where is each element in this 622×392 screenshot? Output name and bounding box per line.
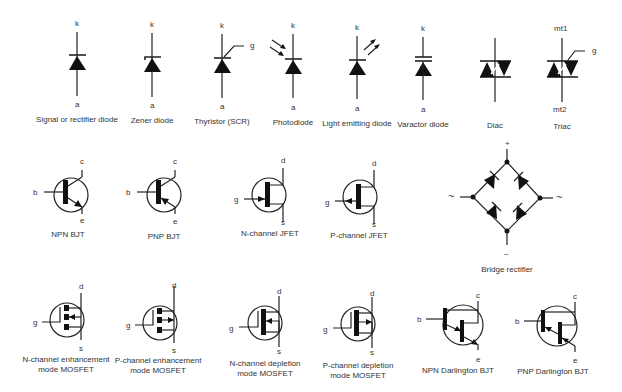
svg-text:e: e xyxy=(573,356,578,365)
photodiode-symbol: k a Photodiode xyxy=(270,21,314,127)
svg-text:c: c xyxy=(173,157,177,166)
svg-text:a: a xyxy=(75,100,80,109)
svg-text:d: d xyxy=(277,287,281,296)
svg-text:g: g xyxy=(234,195,238,204)
svg-text:s: s xyxy=(79,344,83,353)
svg-text:mode MOSFET: mode MOSFET xyxy=(237,369,293,378)
component-symbols-diagram: k a Signal or rectifier diode k a Zener … xyxy=(0,0,622,392)
svg-text:k: k xyxy=(355,23,360,32)
svg-text:a: a xyxy=(220,102,225,111)
svg-text:Photodiode: Photodiode xyxy=(273,118,314,127)
svg-text:e: e xyxy=(476,355,481,364)
svg-text:g: g xyxy=(323,325,327,334)
svg-text:s: s xyxy=(172,346,176,355)
svg-text:b: b xyxy=(126,188,131,197)
svg-text:Zener diode: Zener diode xyxy=(131,116,174,125)
svg-text:P-channel enhancement: P-channel enhancement xyxy=(115,356,203,365)
svg-text:Triac: Triac xyxy=(553,122,570,131)
svg-text:g: g xyxy=(250,41,254,50)
svg-text:Light emitting diode: Light emitting diode xyxy=(322,119,392,128)
svg-text:PNP Darlington BJT: PNP Darlington BJT xyxy=(517,367,589,376)
svg-text:d: d xyxy=(281,156,285,165)
svg-text:+: + xyxy=(505,139,510,148)
svg-text:a: a xyxy=(421,105,426,114)
svg-text:~: ~ xyxy=(448,190,454,202)
pnp-darlington-symbol: b c e PNP Darlington BJT xyxy=(515,292,589,376)
svg-text:g: g xyxy=(126,321,130,330)
svg-text:k: k xyxy=(150,20,155,29)
p-enhancement-mosfet-symbol: g d s P-channel enhancement mode MOSFET xyxy=(115,281,203,375)
thyristor-symbol: k g a Thyristor (SCR) xyxy=(194,21,254,126)
svg-text:g: g xyxy=(229,324,233,333)
svg-text:s: s xyxy=(370,348,374,357)
triac-symbol: mt1 g mt2 Triac xyxy=(547,24,596,131)
svg-text:mode MOSFET: mode MOSFET xyxy=(38,365,94,374)
svg-text:e: e xyxy=(173,217,178,226)
svg-text:k: k xyxy=(220,21,225,30)
svg-text:b: b xyxy=(33,188,38,197)
svg-text:mt2: mt2 xyxy=(553,105,567,114)
svg-text:Thyristor (SCR): Thyristor (SCR) xyxy=(194,117,250,126)
svg-text:d: d xyxy=(172,281,176,290)
svg-text:Varactor diode: Varactor diode xyxy=(397,120,449,129)
svg-text:NPN Darlington BJT: NPN Darlington BJT xyxy=(422,366,494,375)
svg-text:mode MOSFET: mode MOSFET xyxy=(330,371,386,380)
svg-text:~: ~ xyxy=(556,191,562,203)
p-depletion-mosfet-symbol: g d s P-channel depletion mode MOSFET xyxy=(323,289,394,380)
svg-text:g: g xyxy=(592,46,596,55)
svg-text:e: e xyxy=(80,216,85,225)
npn-darlington-symbol: b c e NPN Darlington BJT xyxy=(417,291,494,375)
p-jfet-symbol: g d s P-channel JFET xyxy=(325,159,388,240)
svg-text:k: k xyxy=(75,19,80,28)
svg-text:–: – xyxy=(504,249,509,258)
svg-text:d: d xyxy=(79,282,83,291)
svg-text:g: g xyxy=(33,318,37,327)
svg-text:Signal or rectifier diode: Signal or rectifier diode xyxy=(36,115,118,124)
svg-text:c: c xyxy=(573,292,577,301)
svg-text:N-channel depletion: N-channel depletion xyxy=(229,359,300,368)
svg-text:N-channel JFET: N-channel JFET xyxy=(241,229,299,238)
svg-text:c: c xyxy=(476,291,480,300)
bridge-rectifier-symbol: + ~ ~ – Bridge rectifier xyxy=(448,139,562,274)
npn-bjt-symbol: b c e NPN BJT xyxy=(33,157,88,239)
svg-text:mt1: mt1 xyxy=(554,24,568,33)
svg-text:a: a xyxy=(150,101,155,110)
svg-text:P-channel depletion: P-channel depletion xyxy=(323,361,394,370)
svg-text:Bridge rectifier: Bridge rectifier xyxy=(481,265,533,274)
svg-text:d: d xyxy=(372,159,376,168)
zener-diode-symbol: k a Zener diode xyxy=(131,20,174,125)
varactor-diode-symbol: k a Varactor diode xyxy=(397,24,449,129)
svg-text:NPN BJT: NPN BJT xyxy=(51,230,84,239)
svg-text:g: g xyxy=(325,198,329,207)
svg-text:s: s xyxy=(372,220,376,229)
svg-text:s: s xyxy=(277,347,281,356)
svg-text:a: a xyxy=(291,103,296,112)
n-enhancement-mosfet-symbol: g d s N-channel enhancement mode MOSFET xyxy=(22,282,110,374)
svg-text:b: b xyxy=(417,315,422,324)
svg-text:P-channel JFET: P-channel JFET xyxy=(330,231,387,240)
svg-text:Diac: Diac xyxy=(487,121,503,130)
svg-text:PNP BJT: PNP BJT xyxy=(148,232,181,241)
led-symbol: k a Light emitting diode xyxy=(322,23,392,128)
signal-diode-symbol: k a Signal or rectifier diode xyxy=(36,19,118,124)
diac-symbol: Diac xyxy=(480,38,511,130)
svg-text:N-channel enhancement: N-channel enhancement xyxy=(22,355,110,364)
svg-text:k: k xyxy=(421,24,426,33)
svg-text:b: b xyxy=(515,317,520,326)
svg-text:a: a xyxy=(355,104,360,113)
svg-text:mode MOSFET: mode MOSFET xyxy=(130,366,186,375)
n-jfet-symbol: g d s N-channel JFET xyxy=(234,156,299,238)
pnp-bjt-symbol: b c e PNP BJT xyxy=(126,157,181,241)
svg-text:d: d xyxy=(370,289,374,298)
n-depletion-mosfet-symbol: g d s N-channel depletion mode MOSFET xyxy=(229,287,301,378)
svg-text:k: k xyxy=(291,21,296,30)
svg-text:s: s xyxy=(281,218,285,227)
svg-text:c: c xyxy=(80,157,84,166)
